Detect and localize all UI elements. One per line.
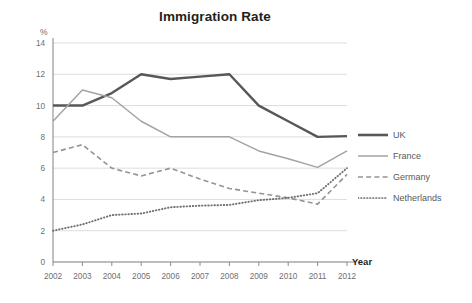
svg-text:10: 10 — [36, 102, 46, 111]
svg-text:2010: 2010 — [279, 272, 298, 281]
svg-text:2006: 2006 — [161, 272, 180, 281]
legend-label-uk: UK — [393, 130, 406, 140]
legend-label-netherlands: Netherlands — [393, 193, 442, 203]
svg-text:2012: 2012 — [338, 272, 357, 281]
legend-item-uk[interactable]: UK — [358, 124, 470, 145]
svg-text:12: 12 — [36, 70, 46, 79]
legend-item-netherlands[interactable]: Netherlands — [358, 187, 470, 208]
svg-text:6: 6 — [40, 164, 45, 173]
svg-text:2002: 2002 — [44, 272, 63, 281]
legend-label-germany: Germany — [393, 172, 430, 182]
x-axis — [53, 262, 355, 266]
svg-text:14: 14 — [36, 39, 46, 48]
legend-swatch-france — [358, 151, 388, 161]
x-axis-title: Year — [352, 256, 372, 267]
legend-swatch-germany — [358, 172, 388, 182]
svg-text:2008: 2008 — [220, 272, 239, 281]
legend-label-france: France — [393, 151, 421, 161]
svg-text:2011: 2011 — [309, 272, 327, 281]
y-tick-labels: 02468101214 — [36, 39, 46, 267]
svg-text:2005: 2005 — [132, 272, 151, 281]
data-series — [53, 74, 347, 230]
svg-text:2: 2 — [40, 227, 45, 236]
svg-text:4: 4 — [40, 195, 45, 204]
svg-text:2003: 2003 — [73, 272, 92, 281]
immigration-rate-chart: Immigration Rate % 02468101214 200220032… — [0, 0, 472, 303]
x-tick-labels: 2002200320042005200620072008200920102011… — [44, 272, 357, 281]
svg-text:2009: 2009 — [250, 272, 269, 281]
legend-swatch-uk — [358, 130, 388, 140]
legend-item-germany[interactable]: Germany — [358, 166, 470, 187]
chart-legend: UK France Germany Netherlands — [358, 124, 470, 208]
svg-text:8: 8 — [40, 133, 45, 142]
legend-swatch-netherlands — [358, 193, 388, 203]
svg-text:0: 0 — [40, 258, 45, 267]
svg-text:2007: 2007 — [191, 272, 210, 281]
legend-item-france[interactable]: France — [358, 145, 470, 166]
svg-text:2004: 2004 — [103, 272, 122, 281]
